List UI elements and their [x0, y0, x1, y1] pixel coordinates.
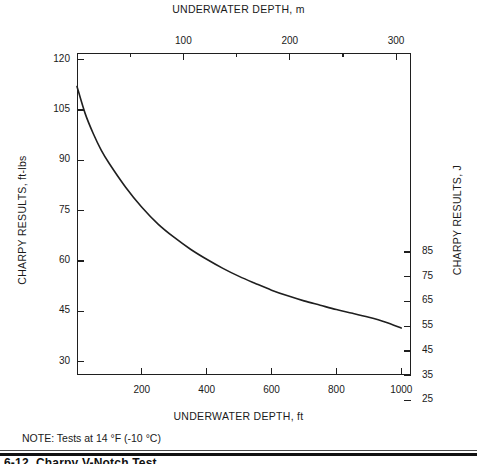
ticklabel-left-30: 30	[30, 355, 70, 366]
figure-caption: 6-12. Charpy V-Notch Test	[4, 456, 477, 464]
top-axis-title: UNDERWATER DEPTH, m	[0, 3, 477, 15]
data-curve	[77, 53, 411, 375]
ticklabel-bottom-800: 800	[311, 384, 361, 395]
tick-right-25	[404, 400, 411, 401]
left-axis-title: CHARPY RESULTS, ft-lbs	[16, 120, 28, 320]
note-text: NOTE: Tests at 14 °F (-10 °C)	[22, 432, 161, 444]
ticklabel-bottom-600: 600	[247, 384, 297, 395]
ticklabel-left-45: 45	[30, 304, 70, 315]
ticklabel-left-105: 105	[30, 103, 70, 114]
ticklabel-top-200: 200	[265, 35, 315, 46]
ticklabel-left-60: 60	[30, 254, 70, 265]
ticklabel-right-35: 35	[422, 369, 462, 380]
ticklabel-right-75: 75	[422, 270, 462, 281]
chart-figure: UNDERWATER DEPTH, m UNDERWATER DEPTH, ft…	[0, 0, 477, 464]
right-axis-title: CHARPY RESULTS, J	[451, 120, 463, 320]
ticklabel-bottom-1000: 1000	[376, 384, 426, 395]
ticklabel-bottom-200: 200	[117, 384, 167, 395]
ticklabel-bottom-400: 400	[182, 384, 232, 395]
bottom-axis-title: UNDERWATER DEPTH, ft	[0, 410, 477, 422]
ticklabel-right-85: 85	[422, 245, 462, 256]
ticklabel-top-100: 100	[158, 35, 208, 46]
tick-right-35	[404, 375, 411, 376]
footer-rule-thin	[0, 450, 477, 451]
ticklabel-left-75: 75	[30, 204, 70, 215]
ticklabel-left-120: 120	[30, 53, 70, 64]
ticklabel-top-300: 300	[371, 35, 421, 46]
ticklabel-left-90: 90	[30, 153, 70, 164]
ticklabel-right-65: 65	[422, 294, 462, 305]
ticklabel-right-55: 55	[422, 319, 462, 330]
ticklabel-right-25: 25	[422, 393, 462, 404]
ticklabel-right-45: 45	[422, 344, 462, 355]
